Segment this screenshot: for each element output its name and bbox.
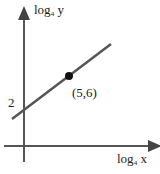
y-axis-label: log4 y bbox=[34, 3, 64, 18]
x-axis-label: log4 x bbox=[117, 152, 147, 167]
y-intercept-label: 2 bbox=[8, 96, 15, 109]
data-point bbox=[65, 72, 73, 80]
data-line bbox=[12, 44, 111, 119]
point-label: (5,6) bbox=[72, 86, 97, 99]
